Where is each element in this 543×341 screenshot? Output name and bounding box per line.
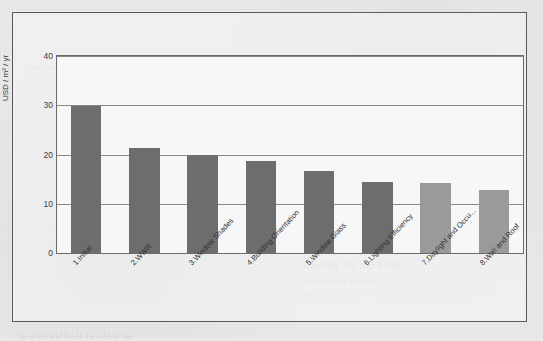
bar (129, 148, 159, 253)
y-axis-title: USD / m² / yr (1, 55, 10, 101)
bar (71, 106, 101, 253)
y-axis-tick-column: 010203040 (27, 55, 53, 254)
bleed-text: the of the and the of the a the of the (18, 332, 132, 341)
figure-frame: 010203040 USD / m² / yr 1.Initial2.WWR3.… (12, 12, 527, 322)
y-axis-tick-label: 40 (44, 51, 53, 61)
y-axis-tick-label: 20 (44, 150, 53, 160)
y-axis-tick-label: 0 (48, 248, 53, 258)
y-axis-tick-label: 10 (44, 199, 53, 209)
y-axis-tick-label: 30 (44, 100, 53, 110)
